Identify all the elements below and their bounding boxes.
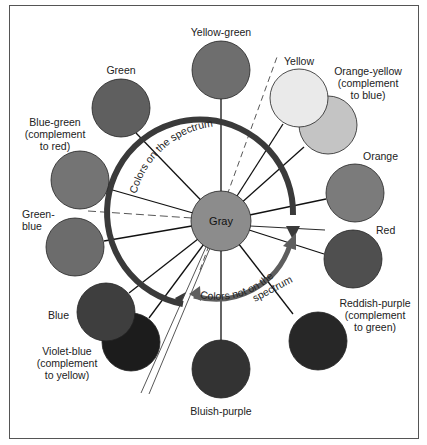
label-line: (complement: [34, 357, 100, 369]
gray-label: Gray: [209, 215, 233, 227]
spectrum-boundary-dash-left: [88, 211, 192, 218]
label-line: Bluish-purple: [176, 405, 266, 417]
label-bluish-purple: Bluish-purple: [176, 405, 266, 417]
red-circle: [324, 230, 382, 288]
yellow-green-circle: [192, 41, 250, 99]
label-blue: Blue: [48, 309, 78, 321]
label-line: Blue: [48, 309, 78, 321]
color-wheel-diagram: Colors on the spectrum Colors not on the…: [0, 0, 427, 445]
label-line: Violet-blue: [34, 345, 100, 357]
label-line: (complement: [326, 77, 410, 89]
label-line: (complement: [22, 128, 88, 140]
label-line: Yellow: [284, 55, 324, 67]
label-green: Green: [96, 64, 146, 76]
bluish-purple-circle: [192, 340, 250, 398]
label-blue-green: Blue-green (complement to red): [22, 116, 88, 152]
label-orange-yellow: Orange-yellow (complement to blue): [326, 65, 410, 101]
label-line: to green): [332, 321, 418, 333]
label-line: (complement: [332, 309, 418, 321]
label-line: Blue-green: [22, 116, 88, 128]
blue-circle: [77, 283, 135, 341]
orange-circle: [326, 164, 384, 222]
label-yellow: Yellow: [284, 55, 324, 67]
label-yellow-green: Yellow-green: [186, 26, 256, 38]
label-line: Green: [96, 64, 146, 76]
label-line: Orange-yellow: [326, 65, 410, 77]
label-orange: Orange: [363, 150, 413, 162]
yellow-circle: [270, 69, 328, 127]
label-line: to blue): [326, 89, 410, 101]
label-line: Orange: [363, 150, 413, 162]
label-green-blue: Green- blue: [22, 208, 62, 232]
label-line: blue: [22, 220, 62, 232]
label-line: to red): [22, 140, 88, 152]
green-circle: [92, 79, 150, 137]
blue-green-circle: [51, 151, 109, 209]
label-line: Green-: [22, 208, 62, 220]
label-line: to yellow): [34, 369, 100, 381]
label-line: Yellow-green: [186, 26, 256, 38]
label-reddish-purple: Reddish-purple (complement to green): [332, 297, 418, 333]
label-line: Red: [376, 224, 406, 236]
label-line: Reddish-purple: [332, 297, 418, 309]
label-red: Red: [376, 224, 406, 236]
label-violet-blue: Violet-blue (complement to yellow): [34, 345, 100, 381]
